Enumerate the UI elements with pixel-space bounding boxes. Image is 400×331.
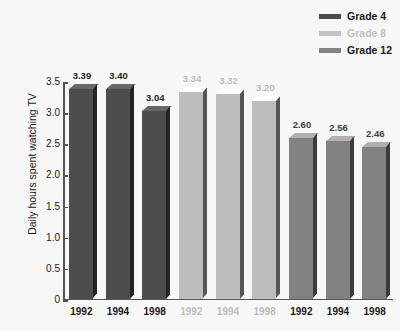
y-tick-label: 0 (34, 294, 60, 305)
x-axis-label: 1992 (283, 305, 320, 318)
bar-side-face (276, 96, 280, 298)
y-tick-label: 1.5 (34, 201, 60, 212)
bar-grade-8-1998[interactable]: 3.20 (252, 83, 276, 299)
bar-value-label: 3.20 (256, 82, 275, 93)
bar-face (216, 94, 240, 299)
bar-side-face (350, 136, 354, 299)
y-tick-mark (63, 300, 68, 302)
bar-grade-12-1992[interactable]: 2.60 (289, 83, 313, 299)
bar-side-face (93, 85, 97, 299)
legend-label: Grade 8 (347, 28, 386, 39)
legend-swatch-icon (319, 48, 341, 53)
bar-side-face (166, 106, 170, 298)
bar-face (252, 101, 276, 298)
bar-grade-8-1992[interactable]: 3.34 (179, 83, 203, 299)
bar-side-face (313, 133, 317, 298)
bar-value-label: 3.34 (183, 73, 202, 84)
bar-value-label: 3.04 (146, 92, 165, 103)
x-axis-label: 1994 (210, 305, 247, 318)
bar-column (362, 147, 386, 299)
bar-grade-12-1994[interactable]: 2.56 (326, 83, 350, 299)
legend-item-grade-4[interactable]: Grade 4 (319, 10, 386, 23)
plot-area: 3.53.02.52.01.51.00.50 3.393.403.043.343… (63, 82, 393, 300)
bar-face (179, 92, 203, 298)
bar-face (289, 138, 313, 298)
bar-face (362, 147, 386, 299)
chart-legend: Grade 4Grade 8Grade 12 (319, 10, 392, 57)
y-tick-label: 2.5 (34, 138, 60, 149)
bar-value-label: 3.40 (109, 70, 128, 81)
x-axis-labels: 199219941998199219941998199219941998 (63, 305, 393, 321)
x-axis-label: 1992 (63, 305, 100, 318)
legend-label: Grade 12 (347, 45, 392, 56)
bar-face (326, 141, 350, 299)
bar-column (142, 111, 166, 299)
x-axis-label: 1994 (100, 305, 137, 318)
bar-face (106, 89, 130, 299)
bar-face (142, 111, 166, 299)
bar-value-label: 2.46 (366, 128, 385, 139)
legend-swatch-icon (319, 14, 341, 19)
bar-value-label: 2.60 (293, 119, 312, 130)
bar-value-label: 3.32 (219, 75, 238, 86)
bar-grade-4-1994[interactable]: 3.40 (106, 83, 130, 299)
y-tick: 0 (33, 300, 73, 301)
bar-side-face (203, 88, 207, 299)
bar-value-label: 3.39 (73, 70, 92, 81)
bar-chart: Grade 4Grade 8Grade 12 Daily hours spent… (0, 0, 400, 331)
bar-grade-4-1998[interactable]: 3.04 (142, 83, 166, 299)
bar-value-label: 2.56 (329, 122, 348, 133)
legend-swatch-icon (319, 31, 341, 36)
bar-column (289, 138, 313, 298)
y-tick-label: 3.0 (34, 107, 60, 118)
bar-face (69, 89, 93, 298)
x-axis-label: 1998 (246, 305, 283, 318)
y-tick-label: 1.0 (34, 232, 60, 243)
legend-label: Grade 4 (347, 11, 386, 22)
bar-side-face (130, 84, 134, 299)
bar-column (69, 89, 93, 298)
bar-group-container: 3.393.403.043.343.323.202.602.562.46 (63, 83, 393, 299)
bar-column (216, 94, 240, 299)
x-axis-label: 1994 (320, 305, 357, 318)
bar-grade-4-1992[interactable]: 3.39 (69, 83, 93, 299)
y-tick-label: 0.5 (34, 263, 60, 274)
x-axis-label: 1998 (356, 305, 393, 318)
bar-column (179, 92, 203, 298)
x-axis-label: 1998 (136, 305, 173, 318)
x-axis-label: 1992 (173, 305, 210, 318)
bar-column (252, 101, 276, 298)
legend-item-grade-12[interactable]: Grade 12 (319, 44, 392, 57)
bar-side-face (240, 89, 244, 299)
bar-column (106, 89, 130, 299)
bar-column (326, 141, 350, 299)
bar-side-face (386, 142, 390, 299)
y-tick-label: 2.0 (34, 169, 60, 180)
bar-grade-8-1994[interactable]: 3.32 (216, 83, 240, 299)
bar-grade-12-1998[interactable]: 2.46 (362, 83, 386, 299)
x-axis-line (63, 299, 393, 301)
legend-item-grade-8[interactable]: Grade 8 (319, 27, 386, 40)
y-tick-label: 3.5 (34, 76, 60, 87)
